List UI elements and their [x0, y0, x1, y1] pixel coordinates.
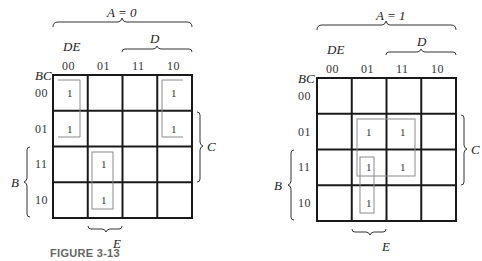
col-variable-label: DE: [327, 43, 344, 56]
col-code: 11: [396, 63, 409, 75]
brace-c: [197, 112, 203, 182]
brace-e: [352, 229, 386, 235]
cell-value: 1: [101, 195, 107, 206]
row-variable-label: BC: [35, 69, 52, 82]
row-code: 01: [35, 123, 48, 135]
brace-b: [24, 147, 30, 217]
row-code: 10: [298, 197, 311, 209]
row-variable-label: BC: [298, 72, 315, 85]
col-code: 00: [62, 60, 75, 72]
col-code: 11: [132, 60, 145, 72]
brace-e: [88, 226, 122, 232]
brace-d: [386, 49, 456, 55]
col-code: 01: [97, 60, 110, 72]
brace-c: [461, 115, 467, 185]
col-code: 10: [431, 63, 444, 75]
cell-value: 1: [366, 127, 372, 138]
col-variable-label: DE: [63, 40, 80, 53]
col-code: 10: [167, 60, 180, 72]
cell-value: 1: [366, 198, 372, 209]
brace-b-label: B: [11, 176, 19, 189]
row-code: 11: [35, 158, 48, 170]
cell-value: 1: [171, 88, 177, 99]
cell-value: 1: [67, 124, 73, 135]
cell-value: 1: [67, 88, 73, 99]
row-code: 00: [35, 87, 48, 99]
brace-b: [288, 150, 294, 220]
brace-d-label: D: [150, 32, 159, 45]
row-code: 11: [298, 161, 311, 173]
map-title: A = 0: [107, 6, 136, 19]
col-code: 01: [361, 63, 374, 75]
brace-e-label: E: [382, 240, 390, 253]
brace-b-label: B: [274, 179, 282, 192]
cell-value: 1: [366, 162, 372, 173]
brace-c-label: C: [207, 140, 216, 153]
kmap-a0-groups: [58, 80, 183, 209]
figure-caption: FIGURE 3-13: [50, 248, 120, 259]
brace-c-label: C: [471, 143, 480, 156]
row-code: 10: [35, 194, 48, 206]
kmap-a1-braces: [288, 21, 467, 235]
row-code: 00: [298, 90, 311, 102]
row-code: 01: [298, 126, 311, 138]
cell-value: 1: [171, 124, 177, 135]
cell-value: 1: [101, 159, 107, 170]
cell-value: 1: [400, 127, 406, 138]
kmap-a1-grid: [317, 78, 456, 221]
cell-value: 1: [400, 162, 406, 173]
brace-d-label: D: [417, 35, 426, 48]
map-title: A = 1: [376, 9, 405, 22]
col-code: 00: [326, 63, 339, 75]
brace-d: [122, 46, 192, 52]
